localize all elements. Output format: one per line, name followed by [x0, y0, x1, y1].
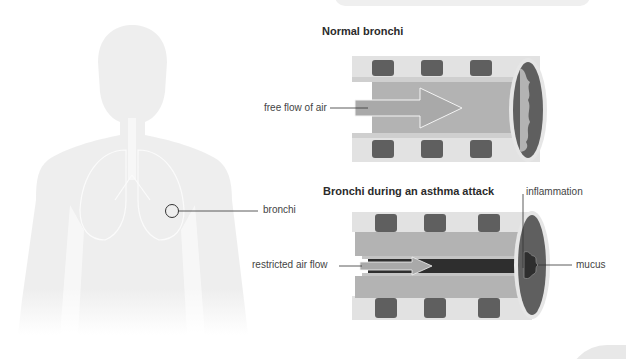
restricted-air-flow-label: restricted air flow: [252, 259, 328, 270]
mucus-label: mucus: [576, 259, 605, 270]
asthma-bronchi-illustration: [0, 0, 626, 359]
